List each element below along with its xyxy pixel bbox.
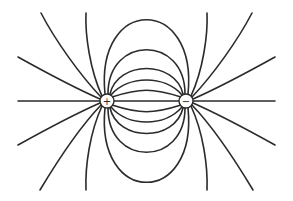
- positive-sign: +: [103, 96, 111, 107]
- positive-charge: +: [100, 94, 114, 108]
- negative-sign: −: [182, 96, 190, 107]
- negative-charge: −: [179, 94, 193, 108]
- dipole-diagram: + −: [0, 0, 293, 201]
- loop-lower-5: [104, 108, 188, 182]
- loop-upper-2: [111, 80, 182, 95]
- dipole-field-svg: + −: [0, 0, 293, 201]
- loop-upper-5: [104, 20, 188, 94]
- loop-lower-2: [111, 107, 182, 122]
- neg-line-up-3: [193, 57, 275, 99]
- neg-line-down-3: [193, 103, 275, 145]
- loop-upper-1: [112, 90, 181, 97]
- pos-line-down-3: [18, 103, 100, 145]
- loop-lower-1: [112, 105, 181, 112]
- pos-line-up-3: [18, 57, 100, 99]
- field-lines: [18, 13, 275, 190]
